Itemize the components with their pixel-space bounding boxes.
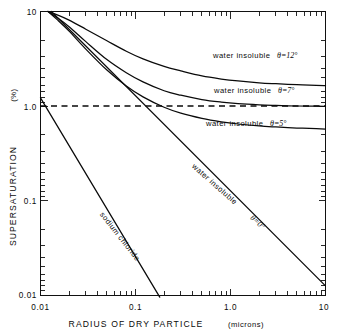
right-axis-ticks [319, 12, 326, 296]
top-axis-ticks [69, 12, 321, 19]
curve-sodium-chloride [41, 98, 160, 297]
annotation-theta-5: water insoluble θ=5° [205, 119, 287, 128]
y-axis-ticks [41, 12, 48, 296]
annotation-theta-12-text: water insoluble [212, 51, 270, 60]
annotation-theta-12: water insoluble θ=12° [212, 51, 298, 60]
x-tick-label-10: 10 [319, 303, 329, 312]
annotation-theta-7-value: θ=7° [278, 86, 295, 95]
x-tick-labels: 0.01 0.1 1.0 10 [31, 303, 329, 312]
y-tick-label-0.1: 0.1 [24, 197, 37, 206]
annotation-sodium-chloride: sodium chloride [98, 210, 142, 263]
annotation-theta-5-value: θ=5° [270, 119, 287, 128]
supersaturation-vs-radius-chart: water insoluble θ=12° water insoluble θ=… [0, 0, 337, 334]
annotation-theta-7: water insoluble θ=7° [213, 86, 295, 95]
x-axis-ticks [41, 289, 326, 296]
curve-theta-5 [48, 12, 325, 130]
y-axis-title-main: SUPERSATURATION [8, 146, 18, 246]
x-axis-title-units: (microns) [228, 320, 264, 329]
curve-theta-12 [48, 12, 325, 86]
x-axis-title: RADIUS OF DRY PARTICLE (microns) [69, 319, 264, 329]
x-tick-label-1.0: 1.0 [224, 303, 237, 312]
annotation-theta-0-value: θ=0° [248, 213, 267, 231]
y-tick-label-0.01: 0.01 [19, 291, 37, 300]
annotation-theta-0: water insoluble θ=0° [189, 161, 267, 231]
y-axis-title: SUPERSATURATION (%) [8, 88, 18, 246]
annotation-theta-12-value: θ=12° [277, 51, 298, 60]
x-tick-label-0.1: 0.1 [129, 303, 142, 312]
chart-figure: water insoluble θ=12° water insoluble θ=… [0, 0, 337, 334]
x-tick-label-0.01: 0.01 [31, 303, 49, 312]
x-axis-title-main: RADIUS OF DRY PARTICLE [69, 319, 204, 329]
annotation-theta-0-text: water insoluble [189, 161, 239, 206]
annotation-sodium-chloride-text: sodium chloride [98, 210, 142, 263]
annotation-theta-7-text: water insoluble [213, 86, 271, 95]
y-tick-labels: 10 1.0 0.1 0.01 [19, 8, 37, 301]
annotation-theta-5-text: water insoluble [205, 119, 263, 128]
y-tick-label-1: 1.0 [24, 103, 37, 112]
y-tick-label-10: 10 [27, 8, 37, 17]
y-axis-title-units: (%) [9, 88, 18, 101]
